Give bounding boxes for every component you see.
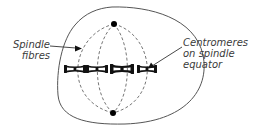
arrowhead-icon <box>148 63 155 69</box>
spindle-fibres-label-line-1: Spindle <box>12 39 50 50</box>
spindle-fibre-outer-right <box>113 24 147 113</box>
chromosome <box>110 64 134 74</box>
spindle-fibres-leader <box>50 46 82 52</box>
arrowhead-icon <box>75 46 82 52</box>
top-pole-centriole <box>111 21 117 27</box>
centromeres-leader <box>148 47 182 69</box>
spindle-fibres-label: Spindle fibres <box>12 39 50 61</box>
centromeres-label-line-1: Centromeres <box>183 37 248 48</box>
spindle-fibre-inner-right <box>113 24 127 113</box>
bottom-pole-centriole <box>110 110 116 116</box>
chromosome <box>86 65 108 73</box>
centromeres-label-line-3: equator <box>183 59 248 70</box>
chromosome <box>64 65 86 73</box>
centromeres-label-line-2: on spindle <box>183 48 248 59</box>
spindle-fibres-label-line-2: fibres <box>12 50 50 61</box>
centromeres-label: Centromeres on spindle equator <box>183 37 248 70</box>
